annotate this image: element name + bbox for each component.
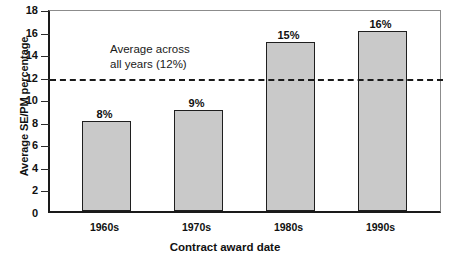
y-axis-tick [41, 101, 50, 102]
y-axis-tick-label: 4 [8, 162, 38, 173]
average-reference-line [50, 79, 443, 81]
y-axis-tick [41, 56, 50, 57]
bar-value-label: 15% [264, 30, 313, 41]
bar [82, 121, 131, 211]
y-axis-tick-label: 8 [8, 117, 38, 128]
bar [358, 31, 407, 211]
y-axis-tick-label: 16 [8, 27, 38, 38]
y-axis-tick-label: 12 [8, 72, 38, 83]
y-axis-tick [41, 34, 50, 35]
bar [266, 42, 315, 211]
y-axis-tick [41, 79, 50, 80]
bar-value-label: 16% [356, 19, 405, 30]
y-axis-tick [41, 169, 50, 170]
y-axis-tick [41, 124, 50, 125]
y-axis-tick-label: 14 [8, 50, 38, 61]
x-axis-tick-label: 1980s [252, 222, 325, 233]
y-axis-tick-label: 10 [8, 95, 38, 106]
x-axis-tick-label: 1970s [160, 222, 233, 233]
x-axis-title: Contract award date [0, 241, 450, 253]
bar-value-label: 8% [80, 109, 129, 120]
x-axis-tick-label: 1990s [344, 222, 417, 233]
bar-value-label: 9% [172, 98, 221, 109]
bar-chart-figure: Average SE/PM percentage 024681012141618… [0, 0, 450, 261]
y-axis-tick [41, 191, 50, 192]
y-axis-tick-label: 0 [8, 208, 38, 219]
average-annotation-label: Average across all years (12%) [110, 42, 190, 72]
y-axis-tick-label: 18 [8, 5, 38, 16]
x-axis-tick-label: 1960s [68, 222, 141, 233]
y-axis-tick-label: 2 [8, 185, 38, 196]
bar [174, 110, 223, 212]
y-axis-tick [41, 146, 50, 147]
y-axis-tick [41, 11, 50, 12]
y-axis-tick-label: 6 [8, 140, 38, 151]
